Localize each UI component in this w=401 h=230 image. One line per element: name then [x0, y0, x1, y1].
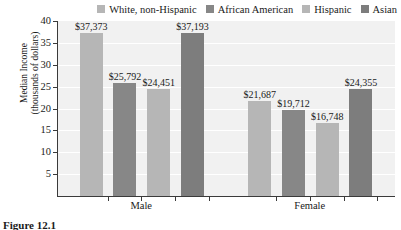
y-axis-tick-label: 30: [1, 59, 51, 70]
bar: [80, 33, 103, 197]
plot-area: $37,373$25,792$24,451$37,193$21,687$19,7…: [57, 21, 395, 197]
bar-value-label: $16,748: [303, 111, 351, 122]
bar: [282, 110, 305, 196]
gridline: [58, 65, 395, 66]
legend-swatch-icon: [361, 5, 369, 13]
legend-swatch-icon: [302, 5, 310, 13]
y-axis-tick-label: 15: [1, 124, 51, 135]
chart-legend: White, non-Hispanic African American His…: [0, 0, 401, 18]
bar: [349, 89, 372, 196]
bar: [316, 123, 339, 196]
x-axis-tick-mark: [209, 197, 210, 201]
y-axis-tick-label: 5: [1, 168, 51, 179]
legend-swatch-icon: [97, 5, 105, 13]
bar-value-label: $37,373: [67, 21, 115, 32]
legend-item-white-non-hispanic: White, non-Hispanic: [97, 4, 196, 15]
bar: [113, 83, 136, 196]
y-axis-tick-label: 40: [1, 15, 51, 26]
gridline: [58, 43, 395, 44]
gridline: [58, 130, 395, 131]
x-axis-tick-mark: [377, 197, 378, 201]
gridline: [58, 174, 395, 175]
bar: [181, 33, 204, 196]
legend-swatch-icon: [206, 5, 214, 13]
x-axis-group-label: Male: [101, 200, 181, 212]
gridline: [58, 109, 395, 110]
y-axis-tick-label: 10: [1, 146, 51, 157]
legend-item-hispanic: Hispanic: [302, 4, 351, 15]
bar-value-label: $37,193: [168, 21, 216, 32]
y-axis-tick-label: 20: [1, 103, 51, 114]
bar-value-label: $19,712: [269, 98, 317, 109]
figure-container: White, non-Hispanic African American His…: [0, 0, 401, 230]
legend-item-african-american: African American: [206, 4, 294, 15]
y-axis-tick-label: 25: [1, 81, 51, 92]
bar: [147, 89, 170, 196]
bar-value-label: $24,355: [337, 77, 385, 88]
bar-value-label: $24,451: [135, 77, 183, 88]
y-axis-tick-label: 35: [1, 37, 51, 48]
x-axis-group-label: Female: [270, 200, 350, 212]
legend-label: Asian: [373, 4, 398, 15]
bar: [248, 101, 271, 196]
gridline: [58, 152, 395, 153]
figure-caption: Figure 12.1: [3, 219, 56, 230]
legend-label: African American: [218, 4, 294, 15]
legend-label: White, non-Hispanic: [109, 4, 196, 15]
legend-label: Hispanic: [314, 4, 351, 15]
legend-item-asian: Asian: [361, 4, 398, 15]
